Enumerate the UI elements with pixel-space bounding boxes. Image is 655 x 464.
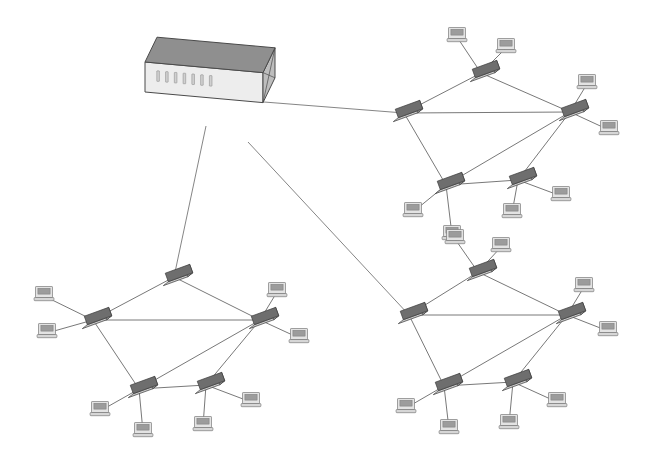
switch-layer	[82, 60, 588, 397]
switch-right-icon[interactable]	[249, 307, 278, 328]
pc-bl-se-1[interactable]	[193, 417, 213, 431]
switch-bottom-right-icon[interactable]	[502, 369, 531, 390]
pc-br-n-1[interactable]	[445, 230, 465, 244]
pc-bl-w-2[interactable]	[37, 324, 57, 338]
pc-br-sw-1[interactable]	[396, 399, 416, 413]
link-br-n-br-e	[478, 272, 567, 315]
switch-left-icon[interactable]	[398, 302, 427, 323]
pc-br-e-1[interactable]	[574, 278, 594, 292]
link-tr-e-tr-se	[518, 112, 570, 180]
switch-bottom-left-icon[interactable]	[435, 172, 464, 193]
link-bl-e-bl-sw	[139, 320, 260, 389]
switch-bottom-left-icon[interactable]	[433, 373, 462, 394]
server-layer	[145, 37, 275, 102]
cluster-link-layer	[93, 73, 570, 389]
uplink-to-cluster-top-right	[264, 102, 404, 113]
pc-bl-e-2[interactable]	[289, 329, 309, 343]
uplink-layer	[174, 102, 409, 315]
link-tr-e-tr-sw	[446, 112, 570, 185]
pc-bl-e-1[interactable]	[267, 283, 287, 297]
switch-top-icon[interactable]	[163, 264, 192, 285]
pc-br-n-2[interactable]	[491, 238, 511, 252]
pc-br-sw-2[interactable]	[439, 420, 459, 434]
switch-right-icon[interactable]	[559, 99, 588, 120]
central-server-icon[interactable]	[145, 37, 275, 102]
pc-bl-se-2[interactable]	[241, 393, 261, 407]
pc-bl-w-1[interactable]	[34, 287, 54, 301]
pc-tr-n-1[interactable]	[447, 28, 467, 42]
pc-br-se-2[interactable]	[547, 393, 567, 407]
link-tr-w-tr-e	[404, 112, 570, 113]
switch-left-icon[interactable]	[393, 100, 422, 121]
link-tr-n-tr-e	[481, 73, 570, 112]
link-br-w-br-sw	[409, 315, 444, 386]
network-diagram-canvas	[0, 0, 655, 464]
pc-tr-e-2[interactable]	[599, 121, 619, 135]
pc-br-e-2[interactable]	[598, 322, 618, 336]
pc-bl-sw-2[interactable]	[133, 423, 153, 437]
pc-br-se-1[interactable]	[499, 415, 519, 429]
uplink-to-cluster-bottom-left	[174, 126, 206, 277]
pc-tr-se-2[interactable]	[551, 187, 571, 201]
link-tr-w-tr-sw	[404, 113, 446, 185]
pc-tr-sw-1[interactable]	[403, 203, 423, 217]
network-topology-svg	[0, 0, 655, 464]
link-bl-n-bl-e	[174, 277, 260, 320]
pc-tr-se-1[interactable]	[502, 204, 522, 218]
link-bl-w-bl-sw	[93, 320, 139, 389]
pc-bl-sw-1[interactable]	[90, 402, 110, 416]
pc-tr-e-1[interactable]	[577, 75, 597, 89]
link-br-e-br-sw	[444, 315, 567, 386]
pc-tr-n-2[interactable]	[496, 39, 516, 53]
